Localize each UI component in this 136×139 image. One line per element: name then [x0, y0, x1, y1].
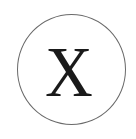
x-icon[interactable]: X [0, 0, 136, 139]
x-glyph: X [45, 36, 93, 108]
